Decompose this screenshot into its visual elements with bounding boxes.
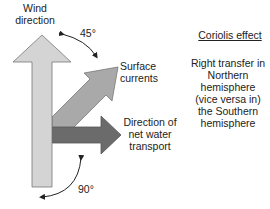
- coriolis-line: (vice versa in): [188, 93, 268, 105]
- wind-direction-label: Wind direction: [10, 2, 60, 26]
- wind-label-line: direction: [10, 14, 60, 26]
- coriolis-line: hemisphere: [188, 117, 268, 129]
- coriolis-line: the Southern: [188, 105, 268, 117]
- angle-45-label: 45°: [80, 27, 96, 39]
- surface-label-line: currents: [120, 72, 158, 84]
- surface-label-line: Surface: [120, 60, 158, 72]
- net-transport-label: Direction of net water transport: [121, 116, 179, 152]
- coriolis-description: Right transfer in Northern hemisphere (v…: [188, 57, 268, 129]
- transport-label-line: Direction of: [121, 116, 179, 128]
- coriolis-line: Right transfer in: [188, 57, 268, 69]
- wind-label-line: Wind: [10, 2, 60, 14]
- transport-label-line: transport: [121, 140, 179, 152]
- angle-90-label: 90°: [78, 183, 94, 195]
- coriolis-line: Northern: [188, 69, 268, 81]
- transport-label-line: net water: [121, 128, 179, 140]
- coriolis-title: Coriolis effect: [192, 29, 268, 41]
- surface-currents-label: Surface currents: [120, 60, 158, 84]
- coriolis-line: hemisphere: [188, 81, 268, 93]
